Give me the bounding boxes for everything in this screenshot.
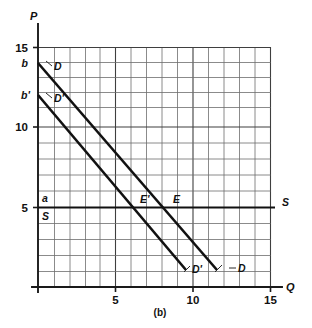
label-e: E — [173, 193, 181, 205]
chart-canvas: P Q 15 10 5 5 10 15 b b' a S S D D' — [0, 0, 312, 328]
supply-demand-figure: P Q 15 10 5 5 10 15 b b' a S S D D' — [0, 0, 312, 328]
demand-curve-d — [38, 63, 217, 270]
figure-caption: (b) — [154, 307, 167, 318]
x-tick-15: 15 — [264, 294, 277, 306]
label-d-prime-end: D' — [192, 263, 203, 275]
label-b: b — [22, 57, 29, 69]
axes — [32, 24, 282, 292]
x-tick-10: 10 — [187, 294, 200, 306]
y-tick-10: 10 — [15, 121, 28, 133]
grid-horizontal — [38, 48, 271, 288]
demand-curve-d-prime — [38, 95, 186, 270]
label-d-end: D — [238, 262, 246, 274]
label-b-prime: b' — [21, 89, 30, 101]
x-tick-5: 5 — [112, 294, 119, 306]
label-d-top: D — [54, 60, 62, 72]
label-d-prime-top: D' — [54, 92, 65, 104]
y-tick-15: 15 — [15, 42, 28, 54]
label-s-left: S — [42, 210, 49, 222]
x-axis-label: Q — [286, 281, 295, 293]
grid-vertical — [55, 47, 271, 287]
label-a: a — [42, 192, 48, 204]
y-axis-label: P — [30, 10, 38, 22]
label-e-prime: E' — [140, 193, 150, 205]
y-tick-5: 5 — [22, 202, 29, 214]
label-s-right: S — [282, 196, 289, 208]
